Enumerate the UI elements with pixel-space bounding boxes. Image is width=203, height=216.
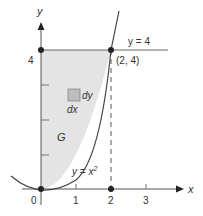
y-axis-arrow-icon <box>38 22 45 30</box>
x-axis-label: x <box>187 183 194 195</box>
dy-label: dy <box>82 90 94 101</box>
area-element-square <box>68 89 80 101</box>
curve-label-base: y = x <box>71 166 94 177</box>
dx-label: dx <box>67 104 79 115</box>
x-tick-label-3: 3 <box>143 195 149 206</box>
x-tick-label-2: 2 <box>108 195 114 206</box>
point-2-4-label: (2, 4) <box>116 55 139 66</box>
region-g-label: G <box>57 131 66 143</box>
line-y4-label: y = 4 <box>128 36 150 47</box>
y-tick-label-4: 4 <box>28 55 34 66</box>
x-tick-label-0: 0 <box>31 195 37 206</box>
y-axis-label: y <box>36 5 44 17</box>
curve-label: y = x2 <box>71 165 97 177</box>
x-axis-arrow-icon <box>176 186 184 193</box>
point-2-4 <box>108 47 114 53</box>
point-2-0 <box>108 186 114 192</box>
x-tick-label-1: 1 <box>73 195 79 206</box>
point-origin <box>38 186 44 192</box>
curve-label-exponent: 2 <box>92 165 97 172</box>
region-diagram: y x 4 0 1 2 3 y = 4 (2, 4) dy dx G y = x… <box>0 0 203 216</box>
point-0-4 <box>38 47 44 53</box>
